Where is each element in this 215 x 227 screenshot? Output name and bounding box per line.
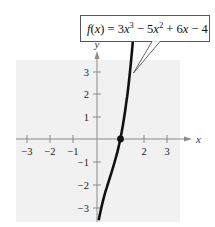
- y-axis-arrow-icon: [95, 51, 100, 59]
- y-tick-label: −1: [78, 157, 89, 168]
- y-tick-label: 2: [84, 89, 89, 100]
- x-axis-label: x: [195, 133, 201, 145]
- x-tick-label: −2: [44, 146, 55, 157]
- plot-background: [16, 60, 180, 222]
- y-tick-label: −3: [78, 203, 89, 214]
- y-tick-label: 1: [84, 112, 89, 123]
- x-tick-label: 2: [141, 146, 146, 157]
- cubic-function-graph: x −3 −2 −1 2 3 y 3 2 1 −1 −2 −3: [0, 0, 215, 227]
- x-intercept-point: [117, 136, 124, 143]
- function-label: f(x) = 3x3 − 5x2 + 6x − 4: [87, 20, 209, 36]
- y-tick-label: 3: [84, 67, 89, 78]
- x-axis-arrow-icon: [184, 137, 192, 142]
- x-tick-label: 3: [164, 146, 169, 157]
- y-tick-label: −2: [78, 180, 89, 191]
- x-tick-label: −3: [21, 146, 32, 157]
- x-tick-label: −1: [67, 146, 78, 157]
